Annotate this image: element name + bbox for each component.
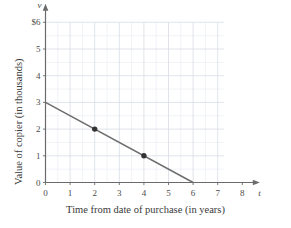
- grid-major-lines: [46, 22, 224, 182]
- y-axis-title: Value of copier (in thousands): [14, 58, 25, 185]
- y-axis-tick-label: 2: [36, 125, 41, 134]
- y-axis-tick-label: 5: [36, 45, 41, 54]
- y-axis-tick-label: 1: [36, 151, 41, 160]
- y-axis-tick-label: 4: [36, 71, 41, 80]
- y-axis-tick-label: 0: [36, 178, 41, 187]
- x-axis-tick-label: 2: [92, 189, 97, 198]
- x-axis-variable-label: t: [258, 189, 261, 198]
- x-axis-title: Time from date of purchase (in years): [0, 205, 291, 216]
- y-axis-tick-label: 3: [36, 98, 41, 107]
- y-axis-variable-label: v: [38, 1, 42, 10]
- x-axis-tick-label: 1: [68, 189, 73, 198]
- x-axis-tick-label: 3: [117, 189, 122, 198]
- axis-tick-marks: [43, 22, 242, 185]
- x-axis-tick-label: 6: [191, 189, 196, 198]
- x-axis-tick-label: 0: [43, 189, 48, 198]
- x-axis-tick-label: 8: [240, 189, 245, 198]
- x-axis-tick-label: 4: [142, 189, 147, 198]
- axis-lines: [43, 4, 260, 186]
- chart-container: 012345678 012345$6 v t Time from date of…: [0, 0, 291, 228]
- x-axis-tick-label: 5: [166, 189, 171, 198]
- y-axis-tick-label: $6: [32, 18, 41, 27]
- x-axis-tick-label: 7: [215, 189, 220, 198]
